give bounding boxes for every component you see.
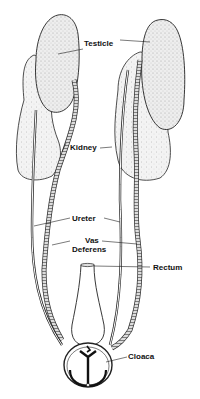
label-deferens: Deferens bbox=[72, 245, 107, 254]
rectum bbox=[72, 265, 105, 346]
label-vas: Vas bbox=[85, 236, 99, 245]
left-testicle bbox=[36, 15, 80, 113]
label-cloaca: Cloaca bbox=[128, 352, 155, 361]
label-ureter: Ureter bbox=[72, 214, 96, 223]
anatomy-diagram: Testicle Kidney Ureter Vas Deferens Rect… bbox=[0, 0, 200, 399]
label-kidney: Kidney bbox=[70, 143, 97, 152]
label-testicle: Testicle bbox=[84, 39, 114, 48]
label-rectum: Rectum bbox=[153, 263, 182, 272]
